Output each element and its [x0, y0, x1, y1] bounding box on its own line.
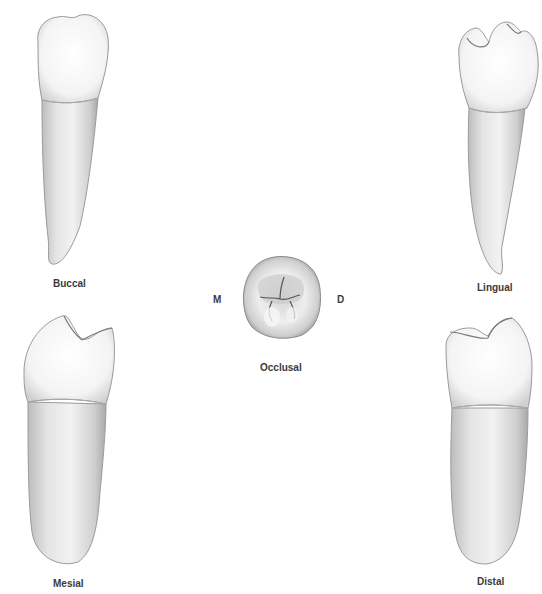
occlusal-label: Occlusal	[260, 362, 302, 373]
distal-view-tooth	[442, 316, 538, 566]
lingual-view-tooth	[455, 16, 542, 278]
distal-label: Distal	[477, 576, 504, 587]
distal-orientation-label: D	[337, 294, 344, 305]
buccal-label: Buccal	[53, 278, 86, 289]
tooth-views-figure: Buccal Lingual Mesial Distal M D Occlusa…	[0, 0, 542, 594]
buccal-view-tooth	[28, 12, 118, 267]
lingual-label: Lingual	[477, 282, 513, 293]
mesial-label: Mesial	[53, 578, 84, 589]
mesial-view-tooth	[20, 312, 120, 570]
mesial-orientation-label: M	[213, 294, 221, 305]
occlusal-view-tooth	[238, 253, 324, 341]
